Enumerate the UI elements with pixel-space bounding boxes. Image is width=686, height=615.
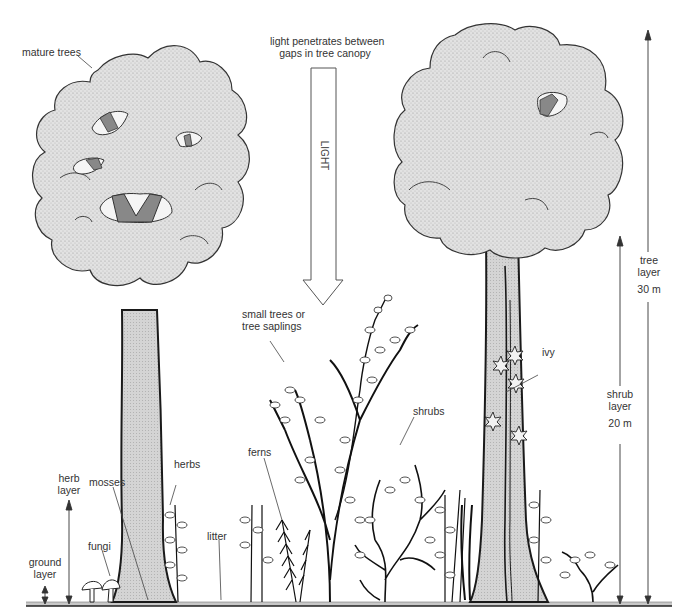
label-small-trees-line1: small trees or [242,308,305,320]
label-herbs: herbs [174,458,200,470]
label-mature-trees: mature trees [22,46,81,58]
light-arrow [303,68,343,305]
label-shrub-layer: shrub layer 20 m [602,388,638,429]
sapling-plants [270,300,418,602]
tree-layer-height: 30 m [632,283,666,295]
light-caption: light penetrates between gaps in tree ca… [270,35,380,59]
woodland-layers-diagram: mature trees light penetrates between ga… [0,0,686,615]
label-small-trees: small trees or tree saplings [242,308,305,332]
label-ferns: ferns [248,446,271,458]
label-small-trees-line2: tree saplings [242,320,305,332]
herb-layer-line1: herb [54,472,84,484]
ground-layer-line2: layer [24,568,66,580]
shrub-layer-line2: layer [602,400,638,412]
diagram-artwork [0,0,686,615]
label-fungi: fungi [88,540,111,552]
shrub-layer-line1: shrub [602,388,638,400]
shrub-center [355,465,445,602]
light-caption-line2: gaps in tree canopy [270,47,380,59]
light-arrow-label: LIGHT [319,139,330,173]
shrub-layer-height: 20 m [602,417,638,429]
tree-layer-line2: layer [632,266,666,278]
left-mature-tree [33,46,250,602]
right-mature-tree [394,24,623,602]
tree-layer-line1: tree [632,254,666,266]
label-ivy: ivy [542,346,555,358]
label-shrubs: shrubs [413,405,445,417]
light-caption-line1: light penetrates between [270,35,380,47]
label-tree-layer: tree layer 30 m [632,254,666,295]
herb-leaves [165,477,615,581]
label-litter: litter [207,530,227,542]
label-herb-layer: herb layer [54,472,84,496]
label-mosses: mosses [89,476,125,488]
label-ground-layer: ground layer [24,556,66,580]
fern-plants [276,520,310,602]
ground-layer-line1: ground [24,556,66,568]
herb-layer-line2: layer [54,484,84,496]
